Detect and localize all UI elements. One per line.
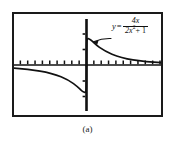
plot-frame: [12, 12, 163, 117]
plot-canvas: [14, 14, 161, 115]
figure-page: y = 4x 2x2+ 1 (a): [0, 0, 175, 145]
curve-left-branch: [14, 66, 87, 93]
figure-caption: (a): [0, 124, 175, 134]
